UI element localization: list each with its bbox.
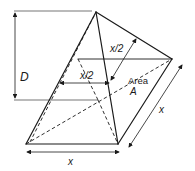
hidden-edge-rear-to-front-right [98, 100, 118, 144]
base-width-label-side: x [158, 104, 165, 115]
base-width-label-bottom: x [67, 156, 74, 167]
base-edge-right [118, 59, 172, 144]
pyramid-diagram: D x/2 x/2 Area A x x [0, 0, 195, 171]
height-label: D [20, 70, 29, 84]
edge-apex-to-back-right [96, 12, 172, 59]
base-width-arrow-side-lower [129, 107, 155, 147]
half-width-label-top: x/2 [109, 43, 124, 54]
half-width-label-front: x/2 [79, 70, 94, 81]
base-width-arrow-side [155, 65, 182, 107]
area-symbol-label: A [129, 86, 137, 97]
edge-apex-to-front-right [96, 12, 118, 144]
half-width-arrow-diagonal [123, 39, 136, 60]
half-width-arrow-diagonal-lower [111, 60, 123, 80]
area-word-label: Area [128, 75, 149, 86]
